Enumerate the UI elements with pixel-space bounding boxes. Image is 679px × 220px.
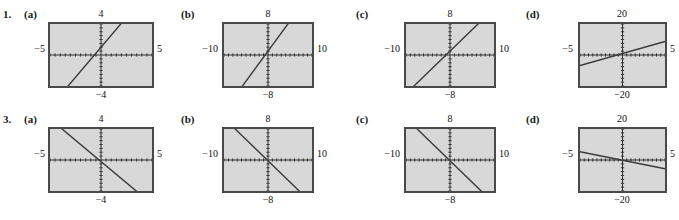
y-max-label-1b: 8 [266, 8, 271, 19]
panel-label-3a: (a) [24, 113, 37, 125]
graph-3a [48, 127, 154, 193]
x-min-label-3c: −10 [376, 148, 400, 159]
panel-label-3c: (c) [356, 113, 368, 125]
y-min-label-1a: −4 [96, 89, 107, 100]
x-min-label-3b: −10 [194, 148, 218, 159]
graph-3b [222, 127, 314, 193]
y-max-label-3d: 20 [617, 113, 627, 124]
y-max-label-3b: 8 [266, 113, 271, 124]
exercise-number: 3. [3, 113, 11, 125]
y-min-label-1c: −8 [445, 89, 456, 100]
x-max-label-1b: 10 [317, 43, 327, 54]
y-min-label-3b: −8 [263, 194, 274, 205]
x-min-label-1b: −10 [194, 43, 218, 54]
y-max-label-1c: 8 [448, 8, 453, 19]
x-max-label-1d: 5 [670, 43, 675, 54]
y-max-label-3a: 4 [99, 113, 104, 124]
y-min-label-3c: −8 [445, 194, 456, 205]
y-min-label-1d: −20 [614, 89, 630, 100]
x-min-label-1d: −5 [556, 43, 573, 54]
x-max-label-1a: 5 [157, 43, 162, 54]
x-max-label-3b: 10 [317, 148, 327, 159]
y-max-label-1d: 20 [617, 8, 627, 19]
graph-1d [578, 22, 667, 88]
graph-1a [48, 22, 154, 88]
x-min-label-1a: −5 [28, 43, 45, 54]
x-max-label-3a: 5 [157, 148, 162, 159]
exercise-row-1: 1. (a) 4 −4 −5 5 (b) 8 −8 −10 10 (c) 8 −… [0, 0, 679, 110]
y-max-label-1a: 4 [99, 8, 104, 19]
graph-3d [578, 127, 667, 193]
exercise-row-3: 3. (a) 4 −4 −5 5 (b) 8 −8 −10 10 (c) 8 −… [0, 105, 679, 215]
x-max-label-3c: 10 [499, 148, 509, 159]
x-max-label-1c: 10 [499, 43, 509, 54]
x-min-label-3d: −5 [556, 148, 573, 159]
x-max-label-3d: 5 [670, 148, 675, 159]
panel-label-1b: (b) [181, 8, 194, 20]
panel-label-1a: (a) [24, 8, 37, 20]
exercise-number: 1. [3, 8, 11, 20]
y-min-label-3a: −4 [96, 194, 107, 205]
y-max-label-3c: 8 [448, 113, 453, 124]
x-min-label-1c: −10 [376, 43, 400, 54]
panel-label-1c: (c) [356, 8, 368, 20]
x-min-label-3a: −5 [28, 148, 45, 159]
y-min-label-1b: −8 [263, 89, 274, 100]
panel-label-1d: (d) [526, 8, 539, 20]
panel-label-3b: (b) [181, 113, 194, 125]
graph-3c [404, 127, 496, 193]
graph-1b [222, 22, 314, 88]
panel-label-3d: (d) [526, 113, 539, 125]
y-min-label-3d: −20 [614, 194, 630, 205]
graph-1c [404, 22, 496, 88]
